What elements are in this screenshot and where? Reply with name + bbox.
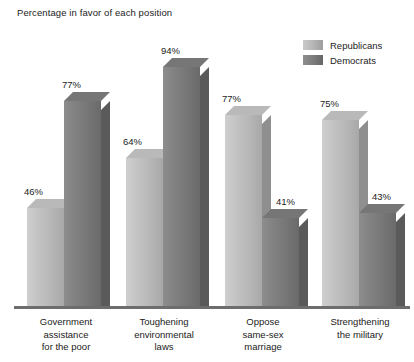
bar-front-face <box>322 120 359 307</box>
bar-democrats-strengthening-the-military <box>359 204 396 307</box>
bar-front-face <box>359 213 396 307</box>
chart-container: Percentage in favor of each position Rep… <box>0 0 414 362</box>
bar-front-face <box>27 208 64 307</box>
bar-side-face <box>200 67 209 307</box>
plot-area: 46% 77% 64% 94% 77% <box>0 0 414 362</box>
bar-democrats-oppose-same-sex-marriage <box>262 209 299 307</box>
value-label-republicans-government-assistance: 46% <box>24 186 43 197</box>
bar-top-face <box>225 106 271 115</box>
bar-side-face <box>396 213 405 307</box>
bar-side-face <box>101 101 110 307</box>
value-label-democrats-strengthening-the-military: 43% <box>372 191 391 202</box>
bar-democrats-toughening-environmental-laws <box>163 58 200 307</box>
x-axis-line <box>14 306 410 309</box>
value-label-republicans-toughening-environmental-laws: 64% <box>123 136 142 147</box>
bar-front-face <box>163 67 200 307</box>
bar-republicans-government-assistance <box>27 199 64 307</box>
bar-front-face <box>64 101 101 307</box>
bar-top-face <box>359 204 405 213</box>
value-label-republicans-strengthening-the-military: 75% <box>320 98 339 109</box>
value-label-democrats-government-assistance: 77% <box>62 79 81 90</box>
bar-top-face <box>64 92 110 101</box>
value-label-democrats-oppose-same-sex-marriage: 41% <box>276 196 295 207</box>
category-label-government-assistance: Government assistance for the poor <box>18 316 114 354</box>
bar-front-face <box>126 158 163 307</box>
bar-republicans-oppose-same-sex-marriage <box>225 106 262 307</box>
bar-front-face <box>225 115 262 307</box>
bar-top-face <box>322 111 368 120</box>
bar-republicans-toughening-environmental-laws <box>126 149 163 307</box>
value-label-republicans-oppose-same-sex-marriage: 77% <box>222 93 241 104</box>
category-label-toughening-environmental-laws: Toughening environmental laws <box>116 316 212 354</box>
category-label-strengthening-the-military: Strengthening the military <box>310 316 410 341</box>
bar-side-face <box>299 218 308 307</box>
bar-top-face <box>262 209 308 218</box>
value-label-democrats-toughening-environmental-laws: 94% <box>161 45 180 56</box>
bar-front-face <box>262 218 299 307</box>
category-label-oppose-same-sex-marriage: Oppose same-sex marriage <box>215 316 311 354</box>
bar-democrats-government-assistance <box>64 92 101 307</box>
bar-top-face <box>163 58 209 67</box>
bar-republicans-strengthening-the-military <box>322 111 359 307</box>
